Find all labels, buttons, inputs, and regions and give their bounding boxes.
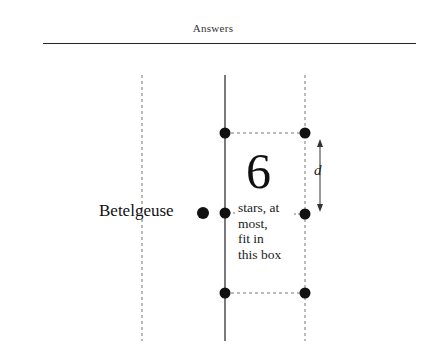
star-dot: [220, 208, 231, 219]
caption-line: stars, at: [238, 200, 308, 216]
star-count: 6: [246, 146, 271, 196]
caption-line: this box: [238, 247, 308, 263]
caption-line: most,: [238, 216, 308, 232]
star-dot: [300, 288, 311, 299]
distance-label: d: [314, 162, 322, 179]
betelgeuse-label: Betelgeuse: [99, 201, 174, 221]
star-dot: [220, 128, 231, 139]
star-dot: [220, 288, 231, 299]
star-dot: [300, 128, 311, 139]
caption-line: fit in: [238, 231, 308, 247]
box-caption: stars, at most, fit in this box: [238, 200, 308, 262]
star-box-diagram: [0, 0, 426, 358]
betelgeuse-dot: [197, 207, 209, 219]
